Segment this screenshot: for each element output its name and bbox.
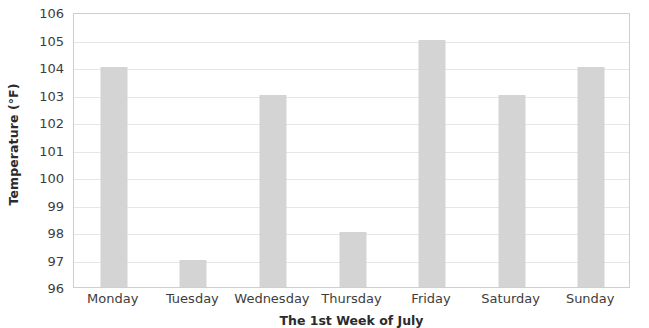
y-tick-label: 96 [47, 282, 64, 295]
y-tick-label: 99 [47, 199, 64, 212]
bar [498, 95, 525, 288]
y-tick-label: 102 [39, 117, 64, 130]
y-tick-label: 103 [39, 89, 64, 102]
y-axis-title-label: Temperature (°F) [6, 83, 21, 205]
y-tick-label: 100 [39, 172, 64, 185]
x-tick-label: Thursday [321, 290, 381, 308]
bars-layer [74, 14, 629, 287]
x-tick-label: Monday [87, 290, 138, 308]
x-tick-label: Tuesday [166, 290, 219, 308]
bar-chart: Temperature (°F) 10610510410310210110099… [0, 0, 649, 328]
x-tick-label: Friday [411, 290, 450, 308]
y-tick-label: 104 [39, 62, 64, 75]
bar [578, 67, 605, 287]
y-tick-label: 106 [39, 7, 64, 20]
x-axis-title: The 1st Week of July [73, 313, 630, 328]
x-tick-label: Saturday [481, 290, 540, 308]
x-tick-label: Sunday [566, 290, 615, 308]
bar [259, 95, 286, 288]
bar [180, 260, 207, 288]
plot-area [73, 13, 630, 288]
y-tick-label: 98 [47, 227, 64, 240]
bar [419, 40, 446, 288]
bar [339, 232, 366, 287]
y-axis-title: Temperature (°F) [0, 0, 26, 288]
y-axis-tick-labels: 10610510410310210110099989796 [26, 13, 70, 288]
bar [100, 67, 127, 287]
y-tick-label: 105 [39, 34, 64, 47]
x-tick-label: Wednesday [234, 290, 309, 308]
x-axis-tick-labels: MondayTuesdayWednesdayThursdayFridaySatu… [73, 290, 630, 310]
y-tick-label: 97 [47, 254, 64, 267]
y-tick-label: 101 [39, 144, 64, 157]
